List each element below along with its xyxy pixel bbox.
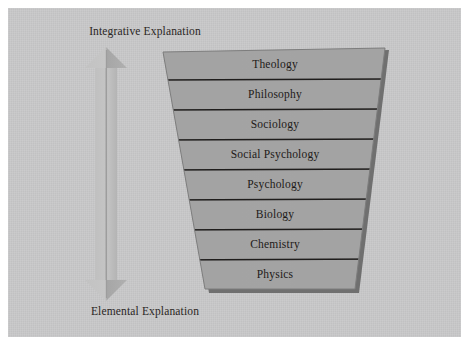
double-headed-arrow-icon xyxy=(74,44,138,304)
level-label-philosophy: Philosophy xyxy=(160,88,390,100)
divider-5 xyxy=(155,199,400,200)
funnel-svg xyxy=(155,40,400,302)
level-label-social-psychology: Social Psychology xyxy=(160,148,390,160)
integrative-explanation-label: Integrative Explanation xyxy=(45,25,245,37)
divider-7 xyxy=(155,259,400,260)
level-label-chemistry: Chemistry xyxy=(160,238,390,250)
divider-2 xyxy=(155,109,400,110)
divider-1 xyxy=(155,79,400,80)
divider-3 xyxy=(155,139,400,140)
explanation-levels-funnel: Theology Philosophy Sociology Social Psy… xyxy=(155,40,400,302)
divider-4 xyxy=(155,169,400,170)
level-label-psychology: Psychology xyxy=(160,178,390,190)
level-label-sociology: Sociology xyxy=(160,118,390,130)
level-label-biology: Biology xyxy=(160,208,390,220)
figure-canvas: Integrative Explanation Elemental Explan… xyxy=(0,0,472,349)
level-label-theology: Theology xyxy=(160,58,390,70)
double-headed-arrow-svg xyxy=(74,44,138,304)
elemental-explanation-label: Elemental Explanation xyxy=(45,305,245,317)
level-label-physics: Physics xyxy=(160,268,390,280)
